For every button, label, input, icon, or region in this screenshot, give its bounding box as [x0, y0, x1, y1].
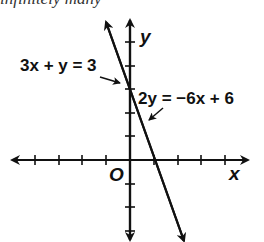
y-axis	[125, 20, 135, 240]
coordinate-plane	[0, 0, 264, 242]
pointer-arrow-eq2	[149, 108, 163, 120]
pointer-arrow-eq1	[100, 77, 120, 83]
origin-label: O	[109, 164, 124, 186]
x-axis-label: x	[229, 163, 240, 185]
y-axis-label: y	[140, 26, 151, 48]
equation-2-label: 2y = −6x + 6	[138, 89, 234, 109]
equation-1-label: 3x + y = 3	[20, 56, 97, 76]
